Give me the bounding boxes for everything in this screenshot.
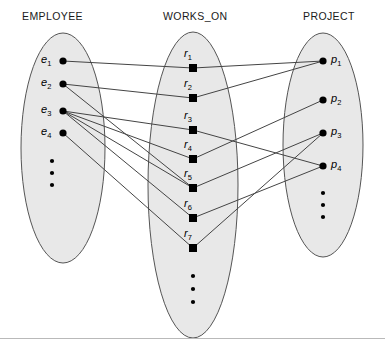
ellipsis-dot-works_on-1 (191, 274, 195, 278)
header-works_on: WORKS_ON (163, 10, 227, 22)
node-r6 (189, 214, 197, 222)
ellipsis-dot-employee-3 (50, 183, 54, 187)
oval-employee (21, 33, 105, 263)
ellipsis-dot-project-3 (321, 215, 325, 219)
node-p1 (319, 57, 326, 64)
ellipsis-dot-employee-2 (50, 171, 54, 175)
ellipsis-dot-employee-1 (50, 159, 54, 163)
er-diagram-svg (0, 0, 385, 348)
label-r2: r2 (184, 77, 192, 92)
node-r3 (189, 126, 197, 134)
label-e3: e3 (41, 103, 51, 118)
ellipsis-dot-project-2 (321, 203, 325, 207)
node-r4 (189, 155, 197, 163)
diagram-canvas: EMPLOYEEWORKS_ONPROJECT e1e2e3e4r1r2r3r4… (0, 0, 385, 348)
label-p3: p3 (331, 125, 341, 140)
label-e2: e2 (41, 76, 51, 91)
node-p4 (319, 162, 326, 169)
label-e4: e4 (41, 125, 51, 140)
ellipsis-dot-works_on-2 (191, 287, 195, 291)
label-r3: r3 (184, 109, 192, 124)
header-project: PROJECT (303, 10, 355, 22)
label-p4: p4 (331, 158, 341, 173)
node-r5 (189, 184, 197, 192)
label-p2: p2 (331, 92, 341, 107)
label-p1: p1 (331, 53, 341, 68)
node-p3 (319, 129, 326, 136)
label-r6: r6 (184, 197, 192, 212)
node-p2 (319, 96, 326, 103)
node-e3 (59, 107, 66, 114)
node-e4 (59, 129, 66, 136)
label-r5: r5 (184, 167, 192, 182)
label-r4: r4 (184, 138, 192, 153)
header-employee: EMPLOYEE (22, 10, 83, 22)
node-r2 (189, 94, 197, 102)
node-e2 (59, 80, 66, 87)
ellipsis-dot-works_on-3 (191, 300, 195, 304)
node-r1 (189, 64, 197, 72)
label-e1: e1 (41, 53, 51, 68)
label-r1: r1 (184, 47, 192, 62)
node-r7 (189, 244, 197, 252)
label-r7: r7 (184, 227, 192, 242)
node-e1 (59, 57, 66, 64)
ellipsis-dot-project-1 (321, 191, 325, 195)
bottom-rule (0, 338, 385, 339)
